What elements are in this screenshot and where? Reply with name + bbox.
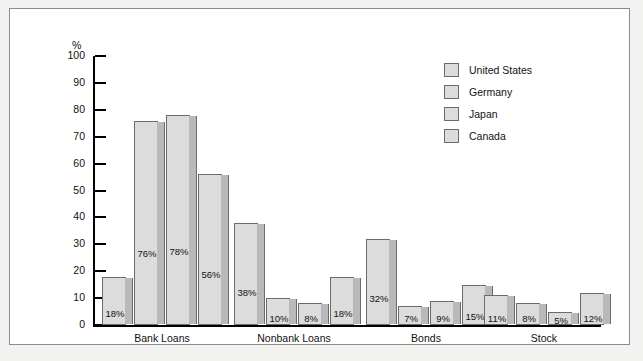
bar-value-label: 12% xyxy=(582,313,604,324)
bar-side-face xyxy=(389,240,397,324)
x-axis-category-label: Nonbank Loans xyxy=(234,332,354,344)
y-axis-tick-label-text: 50 xyxy=(57,185,85,195)
bar-value-label: 8% xyxy=(518,313,540,324)
legend-label: United States xyxy=(469,63,532,77)
bar-side-face xyxy=(125,278,133,324)
bar-value-label: 38% xyxy=(236,287,258,298)
bar-side-face xyxy=(453,302,461,324)
y-axis-tick-label-text: 80 xyxy=(57,104,85,114)
bar[interactable]: 11% xyxy=(484,295,508,325)
y-axis-tick xyxy=(95,190,106,192)
y-axis-tick-label-text: 30 xyxy=(57,238,85,248)
bar-side-face xyxy=(539,304,547,324)
legend-swatch xyxy=(444,107,459,121)
y-axis-tick xyxy=(95,109,106,111)
bar[interactable]: 9% xyxy=(430,301,454,325)
bar-value-label: 56% xyxy=(200,269,222,280)
y-axis-tick-label-text: 40 xyxy=(57,211,85,221)
bar-side-face xyxy=(321,304,329,324)
bar-side-face xyxy=(157,122,165,324)
y-axis-tick-label-text: 60 xyxy=(57,158,85,168)
chart-legend: United StatesGermanyJapanCanada xyxy=(444,61,609,149)
bar-side-face xyxy=(289,299,297,324)
legend-swatch xyxy=(444,85,459,99)
y-axis-tick-label-text: 70 xyxy=(57,131,85,141)
bar-side-face xyxy=(507,296,515,324)
legend-item[interactable]: United States xyxy=(444,61,609,81)
bar-value-label: 15% xyxy=(464,311,486,322)
y-axis-tick xyxy=(95,55,106,57)
bar-side-face xyxy=(603,294,611,324)
legend-swatch xyxy=(444,129,459,143)
bar-value-label: 76% xyxy=(136,248,158,259)
legend-label: Canada xyxy=(469,129,506,143)
bar-value-label: 10% xyxy=(268,313,290,324)
y-axis-tick xyxy=(95,216,106,218)
bar[interactable]: 76% xyxy=(134,121,158,325)
y-axis-tick-label-text: 10 xyxy=(57,292,85,302)
bar-value-label: 8% xyxy=(300,313,322,324)
legend-item[interactable]: Japan xyxy=(444,105,609,125)
y-axis-tick-label-text: 0 xyxy=(57,319,85,329)
bar[interactable]: 5% xyxy=(548,312,572,325)
bar[interactable]: 18% xyxy=(330,277,354,325)
bar-side-face xyxy=(421,307,429,324)
bar[interactable]: 7% xyxy=(398,306,422,325)
bar-value-label: 11% xyxy=(486,313,508,324)
bar-value-label: 32% xyxy=(368,293,390,304)
bar[interactable]: 78% xyxy=(166,115,190,325)
bar-value-label: 78% xyxy=(168,246,190,257)
x-axis-category-label: Bank Loans xyxy=(102,332,222,344)
y-axis-tick-label-text: 90 xyxy=(57,77,85,87)
y-axis-tick-label-text: 20 xyxy=(57,265,85,275)
y-axis-tick xyxy=(95,136,106,138)
y-axis-tick xyxy=(95,243,106,245)
y-axis-tick xyxy=(95,82,106,84)
x-axis-category-label: Bonds xyxy=(366,332,486,344)
legend-label: Germany xyxy=(469,85,512,99)
bar[interactable]: 38% xyxy=(234,223,258,325)
bar[interactable]: 18% xyxy=(102,277,126,325)
bar-side-face xyxy=(257,224,265,324)
chart-frame: % 1009080706050403020100 18%76%78%56%38%… xyxy=(9,8,630,345)
bar[interactable]: 15% xyxy=(462,285,486,325)
bar-side-face xyxy=(189,116,197,324)
bar-value-label: 5% xyxy=(550,315,572,326)
chart-plot-area: % 1009080706050403020100 18%76%78%56%38%… xyxy=(10,9,631,346)
legend-swatch xyxy=(444,63,459,77)
bar[interactable]: 10% xyxy=(266,298,290,325)
bar[interactable]: 8% xyxy=(298,303,322,325)
bar[interactable]: 12% xyxy=(580,293,604,325)
legend-item[interactable]: Canada xyxy=(444,127,609,147)
y-axis-tick xyxy=(95,163,106,165)
bar-side-face xyxy=(571,313,579,324)
legend-item[interactable]: Germany xyxy=(444,83,609,103)
legend-label: Japan xyxy=(469,107,498,121)
bar[interactable]: 8% xyxy=(516,303,540,325)
bar-side-face xyxy=(221,175,229,324)
bar-value-label: 9% xyxy=(432,313,454,324)
bar[interactable]: 56% xyxy=(198,174,222,325)
bar-value-label: 18% xyxy=(332,308,354,319)
bar-value-label: 18% xyxy=(104,308,126,319)
bar[interactable]: 32% xyxy=(366,239,390,325)
x-axis-category-label: Stock xyxy=(484,332,604,344)
bar-side-face xyxy=(353,278,361,324)
x-axis-line xyxy=(93,325,601,327)
bar-value-label: 7% xyxy=(400,313,422,324)
y-axis-tick xyxy=(95,270,106,272)
y-axis-tick-label-text: 100 xyxy=(57,50,85,60)
